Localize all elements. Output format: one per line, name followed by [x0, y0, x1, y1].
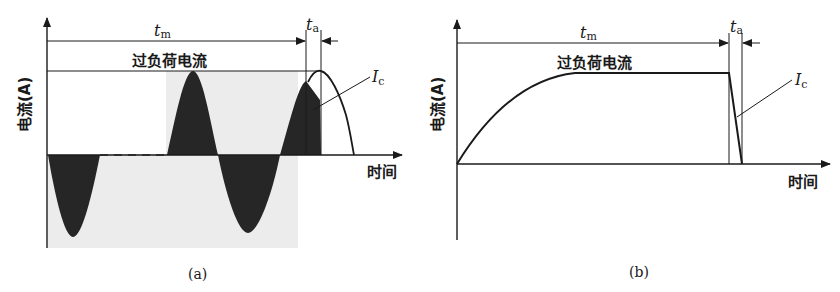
tm-label-b: tm: [580, 23, 597, 43]
ic-label-b: Ic: [794, 70, 808, 91]
ic-leader-b: [737, 80, 792, 117]
overload-label-a: 过负荷电流: [132, 52, 207, 70]
caption-a: (a): [188, 266, 207, 282]
x-axis-label-a: 时间: [367, 163, 397, 181]
overload-label-b: 过负荷电流: [557, 54, 632, 72]
ta-label-a: ta: [306, 15, 319, 35]
ic-label-a: Ic: [371, 67, 385, 88]
ic-leader-a: [313, 77, 370, 110]
y-axis-label-a: 电流(A): [16, 77, 34, 132]
panel-b: tm ta Ic 过负荷电流 时间 电流(A) (b): [429, 17, 830, 280]
panel-a: tm ta Ic 过负荷电流 时间 电流(A) (a): [16, 15, 402, 282]
shaded-region-top-white: [48, 71, 166, 155]
x-axis-label-b: 时间: [788, 173, 818, 191]
current-curve-b: [457, 73, 742, 164]
ta-label-b: ta: [730, 17, 743, 37]
caption-b: (b): [629, 264, 649, 280]
diagram-canvas: tm ta Ic 过负荷电流 时间 电流(A) (a) tm ta Ic 过负荷…: [0, 0, 840, 292]
tm-label-a: tm: [154, 21, 171, 41]
y-axis-label-b: 电流(A): [429, 77, 447, 132]
